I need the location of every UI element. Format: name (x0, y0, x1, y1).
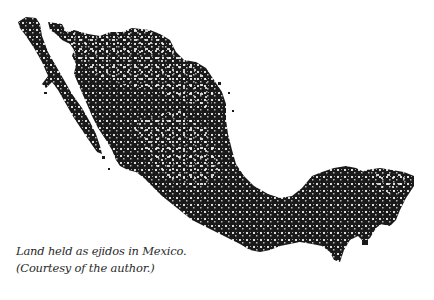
caption-line-2: (Courtesy of the author.) (16, 260, 186, 277)
figure: Land held as ejidos in Mexico. (Courtesy… (0, 0, 434, 300)
island (362, 240, 368, 245)
caption-line-1: Land held as ejidos in Mexico. (16, 243, 186, 260)
figure-caption: Land held as ejidos in Mexico. (Courtesy… (16, 243, 186, 277)
